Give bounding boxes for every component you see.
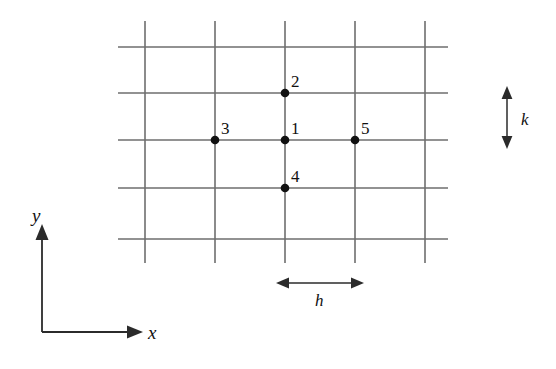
figure-background	[0, 0, 556, 369]
node-label-4: 4	[291, 167, 300, 186]
node-label-5: 5	[361, 119, 370, 138]
y-axis-label: y	[30, 205, 41, 226]
node-dot-5	[351, 136, 360, 145]
node-label-3: 3	[221, 119, 230, 138]
figure-container: 1 2 3 4 5 h k y x	[0, 0, 556, 369]
node-label-2: 2	[291, 72, 300, 91]
k-dimension-label: k	[521, 110, 529, 129]
node-label-1: 1	[291, 119, 300, 138]
node-dot-4	[281, 184, 290, 193]
h-dimension-label: h	[315, 291, 324, 310]
node-dot-2	[281, 89, 290, 98]
node-dot-1	[281, 136, 290, 145]
x-axis-label: x	[147, 322, 157, 343]
grid-stencil-figure: 1 2 3 4 5 h k y x	[0, 0, 556, 369]
node-dot-3	[211, 136, 220, 145]
